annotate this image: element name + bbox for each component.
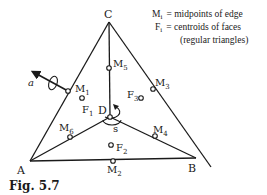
figure-caption: Fig. 5.7 (9, 179, 60, 193)
m2-marker (111, 159, 116, 164)
m3-label: M3 (155, 77, 170, 91)
tetrahedron-diagram: a s C A B D M1 M2 M3 M4 M5 M6 F1 F2 (0, 0, 267, 195)
d-marker (108, 115, 113, 120)
legend: Mi= midpoints of edge Fi= centroids of f… (152, 9, 248, 46)
f1-marker (80, 96, 85, 101)
m1-label: M1 (75, 83, 90, 97)
vertex-d-label: D (98, 104, 107, 117)
centroid-markers (80, 96, 144, 148)
vertex-b-label: B (188, 162, 196, 175)
axis-a: a (28, 73, 68, 91)
legend-line-midpoints: Mi= midpoints of edge (152, 9, 243, 21)
m6-label: M6 (59, 122, 74, 136)
f2-label: F2 (116, 142, 127, 156)
f2-marker (109, 143, 114, 148)
legend-line-regular-triangles: (regular triangles) (180, 35, 248, 46)
m2-label: M2 (107, 164, 122, 178)
axis-a-label: a (28, 77, 34, 88)
m5-label: M5 (113, 58, 128, 72)
m5-marker (107, 66, 112, 71)
vertex-a-label: A (16, 164, 26, 177)
m1-marker (66, 89, 71, 94)
axis-s-label: s (113, 123, 118, 134)
f3-label: F3 (127, 89, 138, 103)
midpoint-markers (66, 66, 158, 164)
axis-a-arrow (35, 73, 68, 91)
f3-marker (139, 96, 144, 101)
legend-line-centroids: Fi= centroids of faces (155, 22, 241, 34)
vertex-c-label: C (104, 8, 112, 21)
f1-label: F1 (82, 104, 93, 118)
